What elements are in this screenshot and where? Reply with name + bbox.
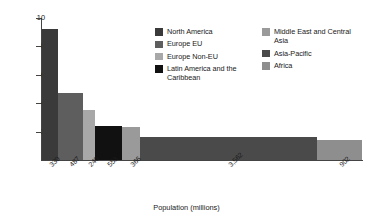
legend-swatch-icon — [262, 28, 270, 36]
legend-swatch-icon — [262, 62, 270, 70]
legend-item-label: Africa — [274, 61, 292, 70]
legend-swatch-icon — [155, 65, 163, 73]
bar — [58, 93, 82, 160]
legend-item-label: Europe EU — [167, 39, 202, 48]
legend-column-left: North AmericaEurope EUEurope Non-EULatin… — [155, 27, 255, 86]
x-axis-title: Population (millions) — [0, 203, 373, 212]
y-tick-mark — [36, 132, 41, 133]
legend-item-label: North America — [167, 27, 213, 36]
y-tick-mark — [36, 46, 41, 47]
legend-item-label: Europe Non-EU — [167, 52, 218, 61]
legend-item: Latin America and the Caribbean — [155, 64, 255, 82]
legend-item: Europe EU — [155, 39, 255, 48]
y-tick-mark — [36, 75, 41, 76]
legend-item-label: Latin America and the Caribbean — [167, 64, 255, 82]
bar — [95, 126, 122, 160]
legend-item: Africa — [262, 61, 362, 70]
y-tick-mark — [36, 103, 41, 104]
legend-item: Asia-Pacific — [262, 49, 362, 58]
legend-item: Europe Non-EU — [155, 52, 255, 61]
legend-swatch-icon — [155, 53, 163, 61]
bar — [317, 140, 362, 160]
bar — [83, 110, 95, 160]
legend: North AmericaEurope EUEurope Non-EULatin… — [155, 27, 365, 99]
bar — [140, 137, 317, 160]
legend-swatch-icon — [155, 28, 163, 36]
legend-item-label: Asia-Pacific — [274, 49, 312, 58]
bar — [42, 29, 58, 160]
ecological-footprint-chart: Ecological Footprint (gha per person) 10… — [0, 0, 373, 223]
legend-column-right: Middle East and Central AsiaAsia-Pacific… — [262, 27, 362, 73]
legend-item-label: Middle East and Central Asia — [274, 27, 362, 45]
legend-swatch-icon — [262, 50, 270, 58]
legend-swatch-icon — [155, 41, 163, 49]
legend-item: North America — [155, 27, 255, 36]
legend-item: Middle East and Central Asia — [262, 27, 362, 45]
y-tick-mark — [36, 18, 41, 19]
